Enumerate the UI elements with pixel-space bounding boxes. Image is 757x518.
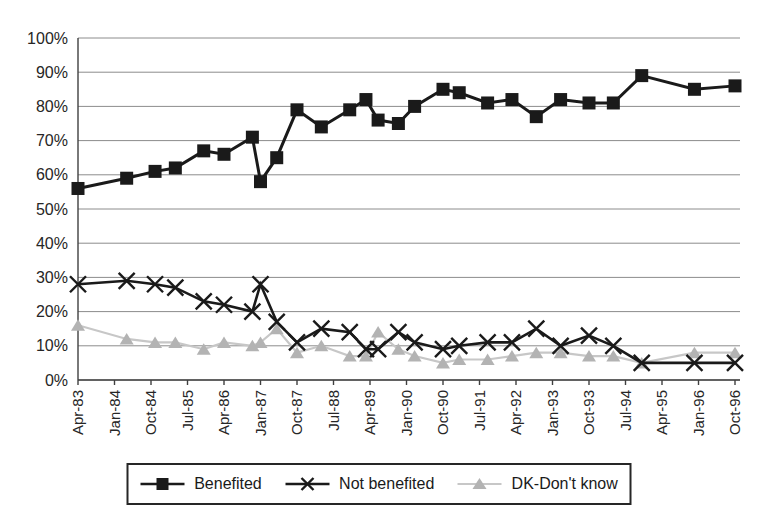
data-point-square [254,175,267,188]
data-point-triangle [371,326,385,338]
data-point-square [197,144,210,157]
data-point-square [359,93,372,106]
data-point-square [392,117,405,130]
benefited-square-icon [139,476,185,492]
legend: Benefited Not benefited DK-Don't know [126,463,631,505]
x-axis-label: Oct-96 [726,390,743,435]
legend-label-dk: DK-Don't know [512,475,618,493]
data-point-square [218,148,231,161]
x-axis-label: Apr-86 [215,390,232,435]
x-axis-label: Jul-85 [179,390,196,431]
x-axis-label: Apr-83 [69,390,86,435]
not-benefited-x-icon [284,476,330,492]
x-axis-label: Apr-92 [507,390,524,435]
y-axis-label: 100% [27,30,68,47]
x-axis-label: Oct-93 [580,390,597,435]
x-axis-label: Jan-90 [398,390,415,436]
data-point-square [246,131,259,144]
data-point-square [688,83,701,96]
x-axis-label: Jan-84 [106,390,123,436]
y-axis-label: 20% [36,303,68,320]
series-line-x [78,281,735,363]
legend-item-dk: DK-Don't know [457,475,618,493]
data-point-x [407,334,423,350]
data-point-square [729,79,742,92]
x-axis-label: Oct-87 [288,390,305,435]
y-axis-label: 30% [36,269,68,286]
x-axis-label: Jul-94 [617,390,634,431]
data-point-square [291,103,304,116]
data-point-x [390,324,406,340]
data-point-x [581,328,597,344]
data-point-square [270,151,283,164]
plot-area: 0%10%20%30%40%50%60%70%80%90%100%Apr-83J… [0,0,757,460]
y-axis-label: 40% [36,235,68,252]
data-point-square [453,86,466,99]
y-axis-label: 70% [36,132,68,149]
x-axis-label: Apr-89 [361,390,378,435]
data-point-square [72,182,85,195]
data-point-square [635,69,648,82]
data-point-square [437,83,450,96]
chart: 0%10%20%30%40%50%60%70%80%90%100%Apr-83J… [0,0,757,518]
dk-triangle-icon [457,476,503,492]
legend-label-benefited: Benefited [194,475,262,493]
data-point-x [253,276,269,292]
data-point-square [607,96,620,109]
y-axis-label: 10% [36,337,68,354]
y-axis-label: 60% [36,166,68,183]
data-point-square [408,100,421,113]
data-point-triangle [408,350,422,362]
x-axis-label: Apr-95 [653,390,670,435]
data-point-square [583,96,596,109]
data-point-x [528,321,544,337]
y-axis-label: 50% [36,201,68,218]
x-axis-label: Jan-87 [252,390,269,436]
legend-item-benefited: Benefited [139,475,262,493]
data-point-square [530,110,543,123]
legend-label-not-benefited: Not benefited [339,475,434,493]
data-point-triangle [71,319,85,331]
data-point-square [169,161,182,174]
x-axis-label: Oct-84 [142,390,159,435]
data-point-square [554,93,567,106]
x-axis-label: Jul-88 [325,390,342,431]
y-axis-label: 90% [36,64,68,81]
data-point-square [120,172,133,185]
y-axis-label: 0% [45,372,68,389]
x-axis-label: Jul-91 [471,390,488,431]
data-point-square [505,93,518,106]
data-point-square [481,96,494,109]
data-point-square [149,165,162,178]
legend-item-not-benefited: Not benefited [284,475,434,493]
x-axis-label: Oct-90 [434,390,451,435]
y-axis-label: 80% [36,98,68,115]
data-point-square [372,114,385,127]
data-point-square [343,103,356,116]
x-axis-label: Jan-96 [690,390,707,436]
x-axis-label: Jan-93 [544,390,561,436]
data-point-square [315,120,328,133]
